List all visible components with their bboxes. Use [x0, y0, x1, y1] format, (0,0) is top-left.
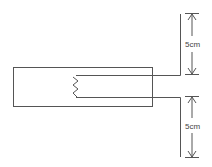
- diagram-canvas: 5cm 5cm: [0, 0, 212, 167]
- upper-channel-line: [76, 14, 181, 76]
- lower-dimension-label: 5cm: [185, 122, 200, 131]
- upper-dimension-label: 5cm: [185, 40, 200, 49]
- zigzag-spring: [73, 77, 78, 97]
- outer-rectangle: [14, 68, 153, 107]
